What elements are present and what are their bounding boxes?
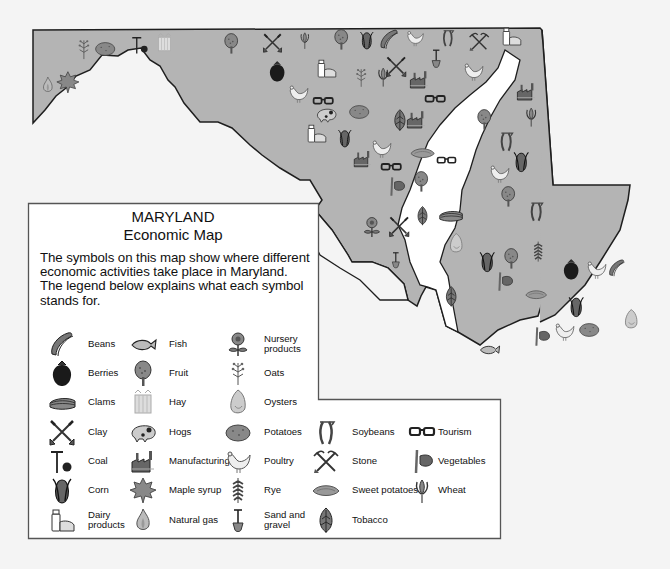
- maryland-map: [0, 0, 670, 569]
